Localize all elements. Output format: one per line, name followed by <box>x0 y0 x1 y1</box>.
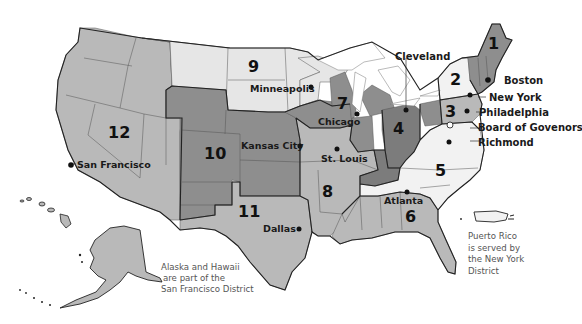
svg-text:District: District <box>468 266 499 276</box>
philadelphia-dot <box>465 109 470 114</box>
svg-text:5: 5 <box>435 161 446 180</box>
svg-text:10: 10 <box>204 144 226 163</box>
svg-text:are part of the: are part of the <box>163 273 225 283</box>
label-chicago: Chicago <box>318 116 361 127</box>
new-york-dot <box>468 93 473 98</box>
note-alaska-hawaii: Alaska and Hawaii are part of the San Fr… <box>161 262 254 294</box>
st-louis-dot <box>335 147 340 152</box>
svg-text:9: 9 <box>248 57 259 76</box>
atlanta-dot <box>405 190 410 195</box>
federal-reserve-district-map: 1 2 3 4 5 6 7 8 9 10 11 12 Boston New Yo… <box>0 0 582 324</box>
label-boston: Boston <box>504 75 543 86</box>
board-of-governors-marker <box>447 122 453 128</box>
svg-text:3: 3 <box>445 102 456 121</box>
label-philadelphia: Philadelphia <box>479 107 549 118</box>
note-puerto-rico: Puerto Rico is served by the New York Di… <box>468 231 524 276</box>
svg-text:11: 11 <box>238 202 260 221</box>
dallas-dot <box>297 227 302 232</box>
aleutian-islands <box>19 254 83 306</box>
svg-text:Puerto Rico: Puerto Rico <box>468 231 517 241</box>
label-cleveland: Cleveland <box>395 51 450 62</box>
svg-text:is served by: is served by <box>468 243 520 253</box>
boston-dot <box>485 77 491 83</box>
svg-text:6: 6 <box>405 207 416 226</box>
svg-text:7: 7 <box>337 94 348 113</box>
svg-text:2: 2 <box>450 70 461 89</box>
svg-text:4: 4 <box>393 119 404 138</box>
svg-text:San Francisco District: San Francisco District <box>161 284 254 294</box>
puerto-rico <box>474 211 508 222</box>
label-board-of-governors: Board of Govenors <box>478 122 582 133</box>
svg-text:12: 12 <box>108 123 130 142</box>
svg-text:8: 8 <box>322 182 333 201</box>
svg-text:Alaska and Hawaii: Alaska and Hawaii <box>161 262 240 272</box>
label-new-york: New York <box>489 92 542 103</box>
label-minneapolis: Minneapolis <box>250 83 315 94</box>
hawaii <box>20 198 71 229</box>
richmond-dot <box>447 140 452 145</box>
label-atlanta: Atlanta <box>384 195 423 206</box>
svg-text:1: 1 <box>488 34 499 53</box>
label-dallas: Dallas <box>263 223 296 234</box>
label-kansas-city: Kansas City <box>241 140 304 151</box>
label-st-louis: St. Louis <box>321 153 368 164</box>
san-francisco-dot <box>68 162 74 168</box>
label-richmond: Richmond <box>478 137 534 148</box>
svg-text:the New York: the New York <box>468 254 524 264</box>
label-san-francisco: San Francisco <box>77 159 151 170</box>
alaska <box>60 226 162 308</box>
cleveland-dot <box>404 108 409 113</box>
